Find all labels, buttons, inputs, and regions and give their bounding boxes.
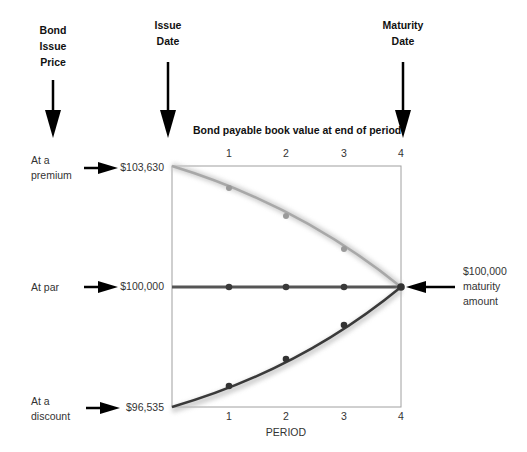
left-arrow-icon [406, 281, 455, 293]
label-premium: At a premium [31, 153, 72, 183]
down-arrow-icon [45, 80, 61, 138]
value-discount: $96,535 [112, 401, 164, 413]
header-maturity-date: Maturity Date [370, 17, 436, 49]
x-tick-top: 2 [276, 147, 296, 159]
discount-line [172, 287, 401, 407]
value-par: $100,000 [112, 280, 164, 292]
x-tick-bottom: 2 [276, 410, 296, 422]
maturity-point [397, 283, 405, 291]
label-par: At par [31, 280, 59, 295]
chart-title: Bond payable book value at end of period [193, 124, 401, 136]
header-issue-date: Issue Date [140, 17, 196, 49]
x-tick-bottom: 3 [334, 410, 354, 422]
x-axis-label: PERIOD [256, 426, 316, 438]
premium-line [172, 166, 401, 287]
value-premium: $103,630 [112, 161, 164, 173]
x-tick-top: 1 [219, 147, 239, 159]
header-bond-issue-price: Bond Issue Price [25, 22, 81, 70]
x-tick-top: 4 [391, 147, 411, 159]
maturity-amount-note: $100,000 maturity amount [463, 264, 507, 309]
down-arrow-icon [160, 62, 176, 138]
label-discount: At a discount [31, 394, 70, 424]
x-tick-bottom: 4 [391, 410, 411, 422]
x-tick-bottom: 1 [219, 410, 239, 422]
x-tick-top: 3 [334, 147, 354, 159]
